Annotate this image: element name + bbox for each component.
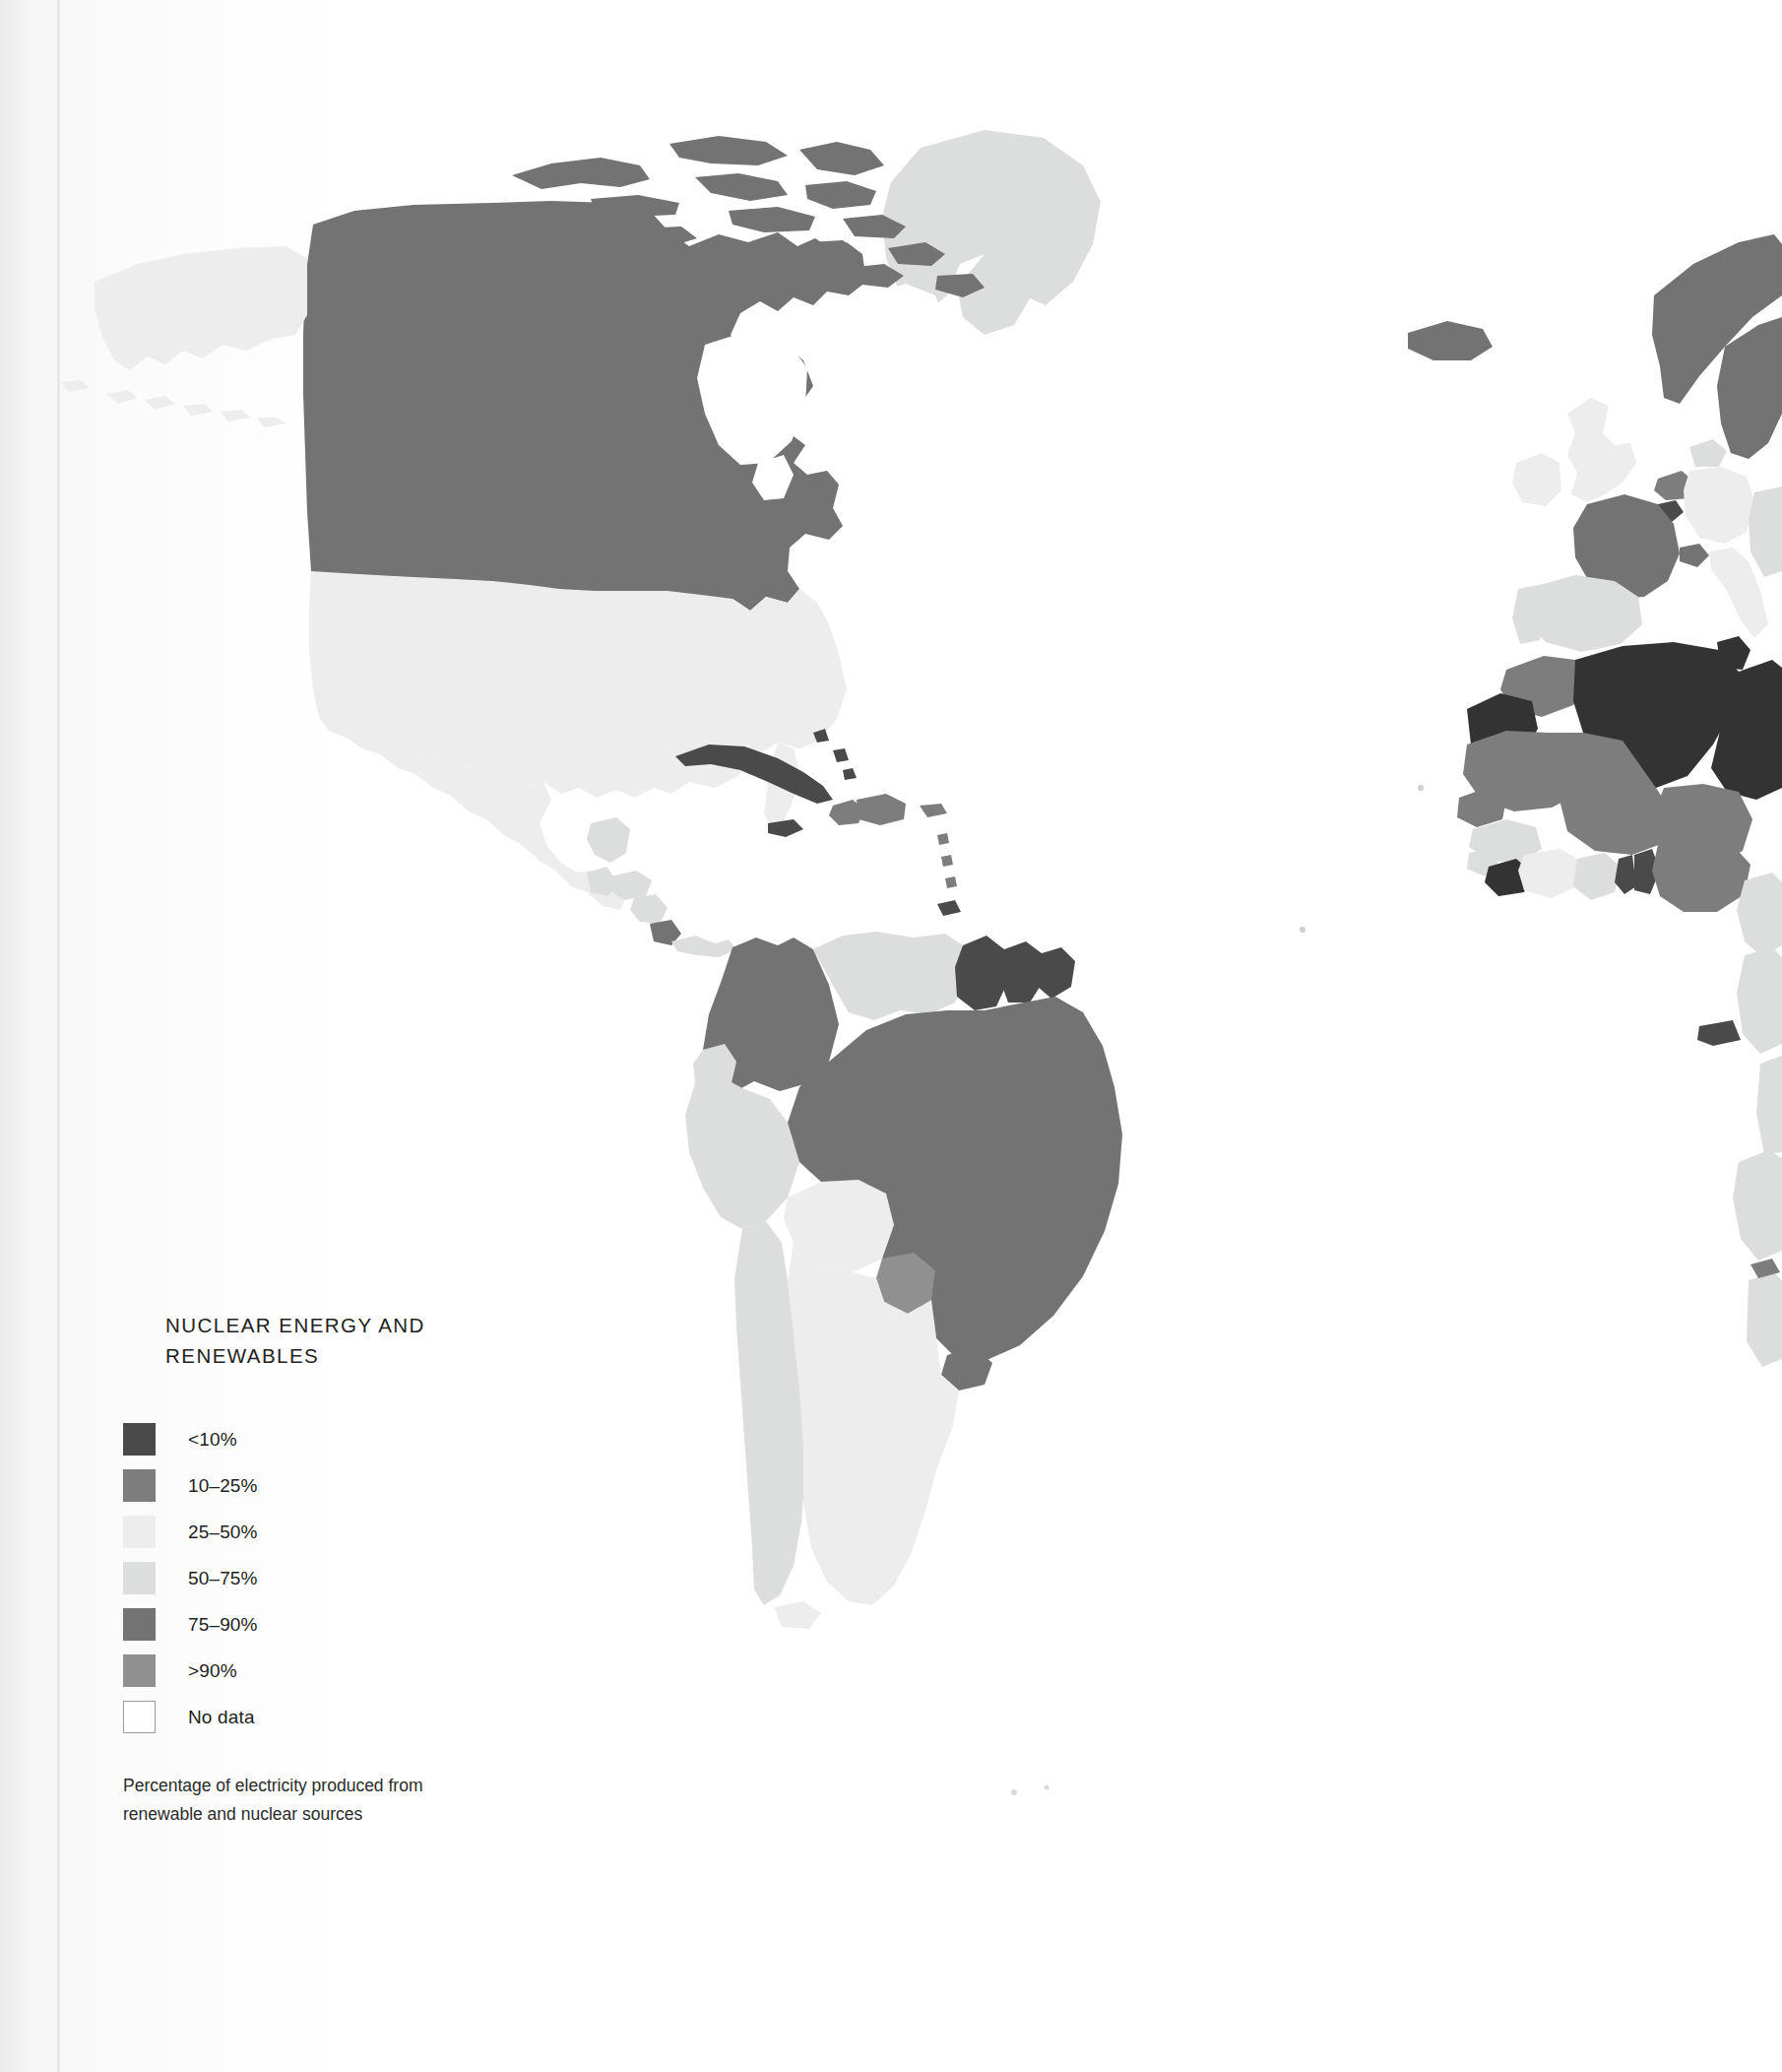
legend-item[interactable]: 75–90%	[123, 1601, 537, 1648]
legend-item[interactable]: 25–50%	[123, 1509, 537, 1555]
legend-swatch-no-data	[123, 1701, 156, 1733]
island-dot-4	[1045, 1785, 1050, 1790]
island-dot-2	[1418, 785, 1424, 791]
map-legend: NUCLEAR ENERGY AND RENEWABLES <10% 10–25…	[123, 1310, 537, 1829]
legend-swatch-10-25	[123, 1469, 156, 1502]
island-dot-3	[1011, 1789, 1017, 1795]
legend-item[interactable]: 50–75%	[123, 1555, 537, 1601]
legend-swatch-gt90	[123, 1654, 156, 1687]
legend-rows: <10% 10–25% 25–50% 50–75% 75–90% >90%	[123, 1416, 537, 1740]
legend-label-gt90: >90%	[188, 1660, 237, 1682]
legend-item[interactable]: >90%	[123, 1648, 537, 1694]
legend-title: NUCLEAR ENERGY AND RENEWABLES	[165, 1310, 537, 1371]
legend-swatch-75-90	[123, 1608, 156, 1641]
legend-swatch-25-50	[123, 1516, 156, 1548]
legend-swatch-lt10	[123, 1423, 156, 1456]
island-dot-1	[1300, 927, 1305, 933]
legend-item[interactable]: No data	[123, 1694, 537, 1740]
atlas-page: NUCLEAR ENERGY AND RENEWABLES <10% 10–25…	[0, 0, 1782, 2072]
legend-label-75-90: 75–90%	[188, 1614, 258, 1636]
legend-label-10-25: 10–25%	[188, 1475, 258, 1497]
legend-caption: Percentage of electricity produced from …	[123, 1772, 448, 1829]
legend-label-lt10: <10%	[188, 1429, 237, 1451]
legend-label-50-75: 50–75%	[188, 1568, 258, 1589]
legend-item[interactable]: 10–25%	[123, 1462, 537, 1509]
legend-label-25-50: 25–50%	[188, 1522, 258, 1543]
legend-item[interactable]: <10%	[123, 1416, 537, 1462]
legend-swatch-50-75	[123, 1562, 156, 1594]
legend-label-no-data: No data	[188, 1707, 255, 1728]
